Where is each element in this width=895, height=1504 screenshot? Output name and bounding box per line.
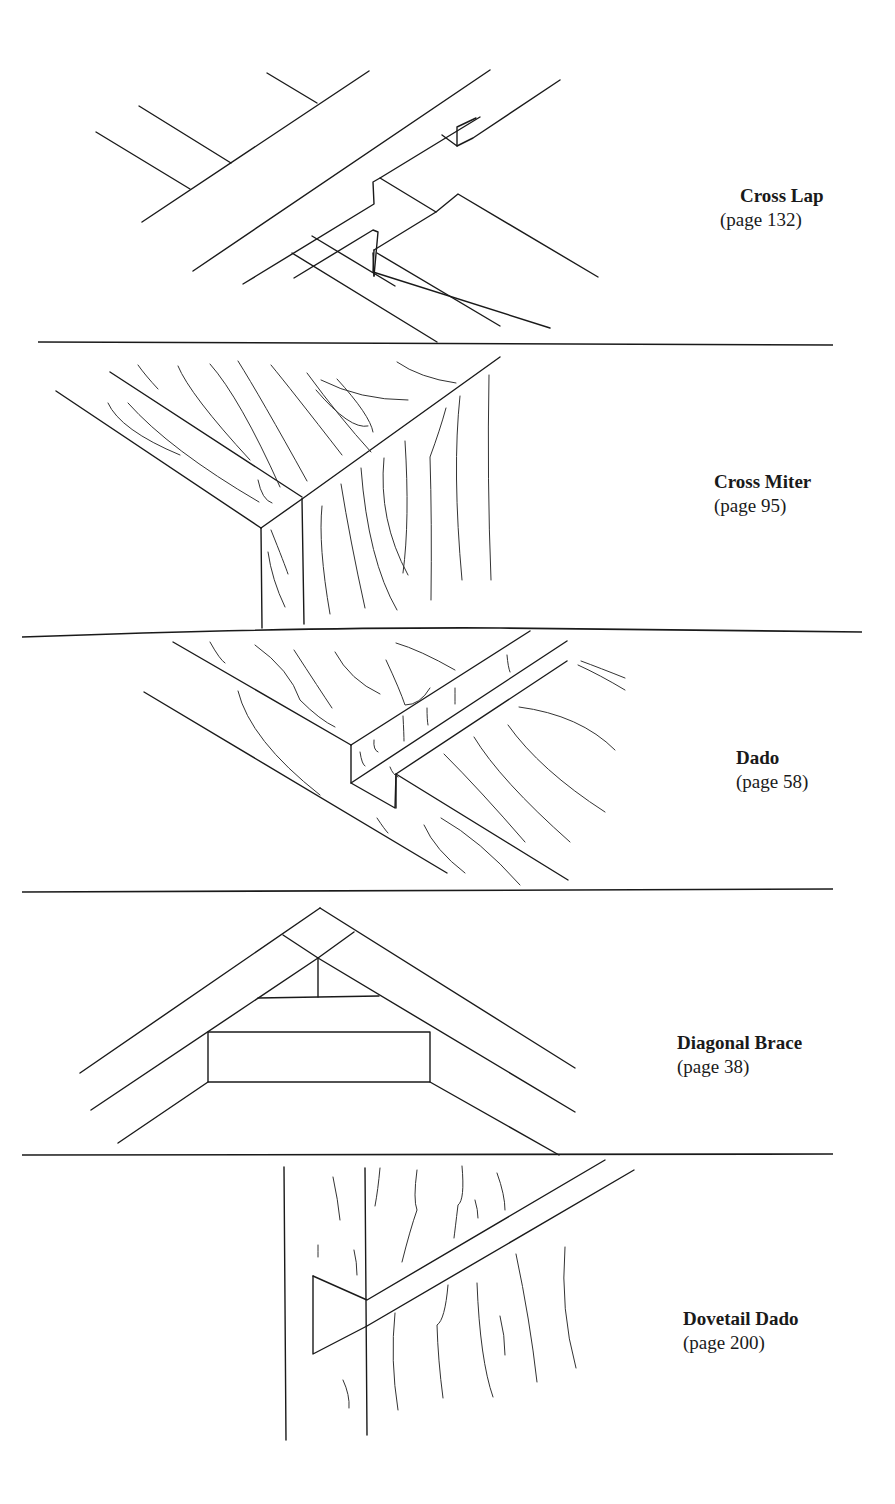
joint-page-ref: (page 95) (714, 494, 811, 518)
joint-caption-diagonal-brace: Diagonal Brace (page 38) (677, 1031, 802, 1079)
joint-caption-cross-miter: Cross Miter (page 95) (714, 470, 811, 518)
joint-title: Diagonal Brace (677, 1031, 802, 1055)
diagonal-brace-drawing (80, 908, 575, 1155)
joint-title: Cross Lap (740, 184, 824, 208)
catalog-page: Cross Lap (page 132) Cross Miter (page 9… (0, 0, 895, 1504)
joint-page-ref: (page 200) (683, 1331, 799, 1355)
joint-title: Dado (736, 746, 808, 770)
joint-caption-cross-lap: Cross Lap (page 132) (740, 184, 824, 232)
cross-lap-drawing (96, 70, 598, 342)
joint-title: Cross Miter (714, 470, 811, 494)
joint-page-ref: (page 132) (720, 208, 824, 232)
joint-page-ref: (page 58) (736, 770, 808, 794)
cross-miter-drawing (56, 357, 500, 628)
joint-title: Dovetail Dado (683, 1307, 799, 1331)
joint-caption-dovetail-dado: Dovetail Dado (page 200) (683, 1307, 799, 1355)
joint-caption-dado: Dado (page 58) (736, 746, 808, 794)
dado-drawing (144, 631, 625, 885)
dovetail-dado-drawing (284, 1160, 634, 1440)
joint-page-ref: (page 38) (677, 1055, 802, 1079)
